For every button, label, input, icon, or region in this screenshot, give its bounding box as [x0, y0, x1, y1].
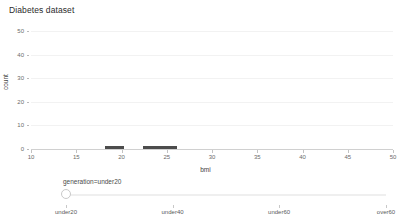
slider-tick-mark	[66, 205, 67, 208]
x-axis-tick-mark	[257, 150, 258, 153]
slider-tick-label[interactable]: over60	[377, 209, 395, 215]
gridline	[31, 31, 393, 32]
x-axis-tick-mark	[76, 150, 77, 153]
x-axis-tick-label: 20	[118, 154, 125, 160]
x-axis-tick-label: 45	[344, 154, 351, 160]
x-axis-tick-label: 40	[299, 154, 306, 160]
slider-track-fill	[66, 194, 386, 196]
bar	[105, 146, 124, 149]
x-axis-tick-mark	[393, 150, 394, 153]
chart-title: Diabetes dataset	[9, 5, 74, 15]
gridline	[31, 55, 393, 56]
x-axis-tick-mark	[31, 150, 32, 153]
slider-tick-label[interactable]: under20	[55, 209, 77, 215]
gridline	[31, 102, 393, 103]
x-axis-tick-label: 50	[390, 154, 397, 160]
slider-handle[interactable]	[61, 189, 71, 199]
visualization-root: Diabetes dataset 01020304050 count 10152…	[0, 0, 402, 224]
bar	[143, 146, 176, 149]
x-axis-tick-mark	[212, 150, 213, 153]
y-axis-tick-label: 50	[0, 28, 24, 34]
x-axis-tick-mark	[122, 150, 123, 153]
y-axis-tick-mark	[27, 125, 29, 126]
y-axis-tick-label: 10	[0, 122, 24, 128]
x-axis-tick-label: 10	[28, 154, 35, 160]
y-axis-tick-label: 40	[0, 52, 24, 58]
y-axis-tick-label: 0	[0, 146, 24, 152]
y-axis-title: count	[2, 74, 9, 90]
x-axis-title-text: bmi	[200, 166, 210, 173]
y-axis-tick-mark	[27, 55, 29, 56]
x-axis-tick-label: 15	[73, 154, 80, 160]
x-axis-tick-mark	[348, 150, 349, 153]
x-axis-tick-label: 30	[209, 154, 216, 160]
slider-tick-mark	[279, 205, 280, 208]
slider-tick-mark	[173, 205, 174, 208]
slider-tick-mark	[386, 205, 387, 208]
slider-tick-label[interactable]: under40	[162, 209, 184, 215]
gridline	[31, 125, 393, 126]
x-axis-tick-label: 35	[254, 154, 261, 160]
x-axis-title: bmi	[0, 166, 402, 173]
y-axis-tick-mark	[27, 31, 29, 32]
slider-label: generation=under20	[63, 178, 121, 185]
slider-track[interactable]	[66, 194, 386, 196]
generation-slider-widget[interactable]: generation=under20 under20under40under60…	[0, 178, 402, 224]
y-axis-tick-label: 20	[0, 99, 24, 105]
x-axis-tick-mark	[303, 150, 304, 153]
slider-tick-label[interactable]: under60	[268, 209, 290, 215]
x-axis-tick-mark	[167, 150, 168, 153]
y-axis-tick-mark	[27, 78, 29, 79]
gridline	[31, 78, 393, 79]
y-axis-tick-mark	[27, 149, 29, 150]
y-axis-tick-mark	[27, 102, 29, 103]
x-axis-tick-label: 25	[163, 154, 170, 160]
plot-area	[31, 31, 393, 149]
